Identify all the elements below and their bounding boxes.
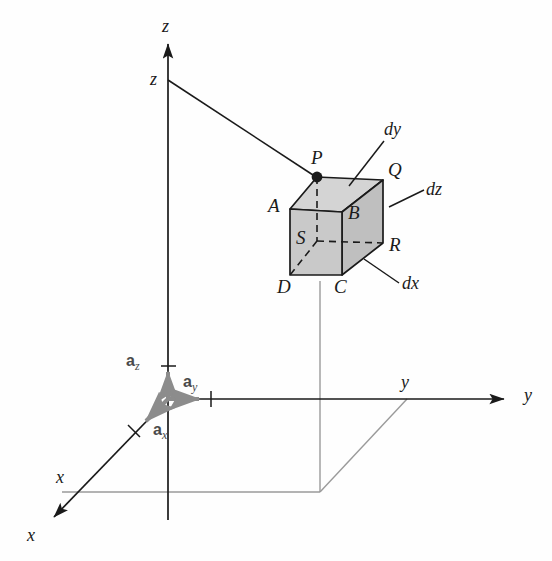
projection-line-diagonal	[320, 399, 407, 492]
dimension-label-dy: dy	[384, 120, 401, 138]
axis-label-x-tip: x	[27, 526, 35, 544]
axis-label-z-tip: z	[162, 17, 169, 35]
diagram-svg	[0, 0, 552, 561]
unit-vector-az-symbol: a	[126, 352, 135, 369]
volume-element-cube	[290, 172, 383, 275]
unit-vector-label-az: az	[126, 352, 140, 372]
dimension-label-dz: dz	[426, 180, 442, 198]
unit-vector-label-ay: ay	[183, 373, 197, 393]
unit-vector-label-ax: ax	[153, 421, 167, 441]
position-line-to-P	[168, 80, 313, 175]
point-P-marker	[312, 172, 323, 183]
unit-vector-ax-symbol: a	[153, 421, 162, 438]
xy-plane-projection	[62, 281, 407, 492]
leader-line-dz	[389, 190, 424, 207]
axis-label-y-tip: y	[524, 386, 532, 404]
figure-canvas: z z y y x x az ay ax P Q A B S R D C dy …	[0, 0, 552, 561]
axis-label-x-point: x	[56, 468, 64, 486]
unit-vector-ax-subscript: x	[162, 428, 167, 442]
dimension-label-dx: dx	[402, 274, 419, 292]
vertex-label-P: P	[311, 148, 323, 167]
unit-vector-ay-symbol: a	[183, 373, 192, 390]
vertex-label-R: R	[389, 235, 401, 254]
vertex-label-C: C	[334, 277, 347, 296]
unit-vector-ax-arrow	[146, 399, 168, 421]
vertex-label-Q: Q	[388, 160, 402, 179]
vertex-label-A: A	[268, 196, 280, 215]
vertex-label-D: D	[277, 277, 291, 296]
vertex-label-B: B	[348, 203, 360, 222]
unit-vector-az-subscript: z	[135, 359, 140, 373]
axis-label-y-point: y	[401, 373, 409, 391]
axis-label-z-point: z	[150, 70, 157, 88]
vertex-label-S: S	[296, 228, 306, 247]
unit-vector-ay-subscript: y	[192, 380, 197, 394]
leader-line-dx	[364, 259, 399, 283]
